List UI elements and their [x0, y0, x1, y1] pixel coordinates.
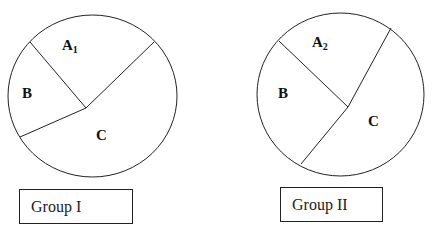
diagram-root: A1 B C A2 B C Group I Group II [0, 0, 433, 231]
slice-label-b2: B [278, 86, 288, 101]
slice-label-b1: B [22, 86, 32, 101]
slice-label-c2: C [368, 114, 379, 129]
pie-group-1 [8, 15, 177, 177]
caption-group-2: Group II [280, 187, 383, 222]
caption-group-1: Group I [19, 189, 133, 224]
slice-label-c1: C [96, 128, 107, 143]
slice-label-a2: A2 [312, 35, 328, 52]
slice-label-a1: A1 [62, 38, 78, 55]
